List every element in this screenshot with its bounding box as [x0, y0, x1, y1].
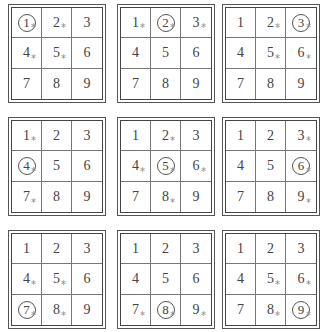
- cell-number: 1: [132, 242, 139, 256]
- grid-cell: 9: [181, 69, 211, 99]
- cell-number: 5: [267, 46, 274, 60]
- asterisk-icon: *: [275, 54, 280, 64]
- grid-cell: 3: [72, 234, 102, 264]
- grid-cell: 3: [286, 234, 316, 264]
- cell-number: 7: [132, 190, 139, 204]
- grid-frame: 1234*5*67*8*9: [11, 233, 103, 326]
- grid-frame: 123*456*789*: [225, 120, 317, 213]
- cell-number: 2: [53, 242, 60, 256]
- cell-number: 6: [298, 272, 305, 286]
- cell-number: 1: [23, 129, 30, 143]
- cell-number: 7: [237, 190, 244, 204]
- grid-cell: 1*: [12, 8, 42, 38]
- cell-number: 4: [132, 272, 139, 286]
- asterisk-icon: *: [275, 280, 280, 290]
- cell-number: 4: [132, 46, 139, 60]
- grid-frame: 12345*6*78*9*: [225, 233, 317, 326]
- grid-cell: 7*: [121, 295, 151, 325]
- grid-cell: 6: [72, 264, 102, 294]
- grid-cell: 4: [226, 38, 256, 68]
- grid-1: 1*2*34*5*6789: [8, 4, 106, 103]
- grid-6: 123*456*789*: [222, 117, 320, 216]
- grid-cell: 4: [121, 38, 151, 68]
- grid-cell: 4*: [12, 151, 42, 181]
- cell-number: 9: [193, 77, 200, 91]
- grid-cell: 5: [256, 151, 286, 181]
- asterisk-icon: *: [170, 198, 175, 208]
- grid-cell: 9: [181, 182, 211, 212]
- asterisk-icon: *: [31, 136, 36, 146]
- grid-cell: 1: [121, 121, 151, 151]
- grid-cell: 7: [12, 69, 42, 99]
- asterisk-icon: *: [306, 23, 311, 33]
- grid-cell: 4*: [121, 151, 151, 181]
- cell-number: 8: [267, 303, 274, 317]
- grid-cell: 8*: [151, 182, 181, 212]
- cell-number: 4: [23, 272, 30, 286]
- grid-frame: 1234567*8*9*: [120, 233, 212, 326]
- asterisk-icon: *: [170, 311, 175, 321]
- asterisk-icon: *: [31, 198, 36, 208]
- cell-number: 3: [84, 129, 91, 143]
- grid-frame: 1*2*34*5*6789: [11, 7, 103, 100]
- asterisk-icon: *: [170, 23, 175, 33]
- grid-cell: 3: [72, 121, 102, 151]
- cell-number: 3: [193, 16, 200, 30]
- cell-number: 7: [23, 190, 30, 204]
- grid-cell: 8: [42, 69, 72, 99]
- grid-cell: 5: [151, 264, 181, 294]
- grid-cell: 8: [256, 69, 286, 99]
- cell-number: 2: [162, 129, 169, 143]
- asterisk-icon: *: [140, 167, 145, 177]
- cell-number: 5: [267, 272, 274, 286]
- grid-cell: 9*: [286, 295, 316, 325]
- grid-frame: 12*3*45*6*789: [225, 7, 317, 100]
- cell-number: 8: [53, 190, 60, 204]
- cell-number: 7: [132, 303, 139, 317]
- cell-number: 3: [193, 129, 200, 143]
- grid-cell: 1: [226, 8, 256, 38]
- cell-number: 8: [162, 77, 169, 91]
- cell-number: 2: [267, 16, 274, 30]
- cell-number: 9: [84, 190, 91, 204]
- cell-number: 4: [132, 159, 139, 173]
- grid-frame: 12*34*5*6*78*9: [120, 120, 212, 213]
- grid-cell: 3: [181, 234, 211, 264]
- cell-number: 1: [132, 16, 139, 30]
- grid-cell: 5*: [42, 38, 72, 68]
- grid-cell: 4*: [12, 264, 42, 294]
- grid-cell: 9: [286, 69, 316, 99]
- grid-cell: 2*: [256, 8, 286, 38]
- grid-cell: 5: [42, 151, 72, 181]
- cell-number: 3: [84, 16, 91, 30]
- grid-cell: 4*: [12, 38, 42, 68]
- grid-cell: 6*: [286, 151, 316, 181]
- grid-cell: 8*: [151, 295, 181, 325]
- cell-number: 1: [237, 242, 244, 256]
- asterisk-icon: *: [201, 311, 206, 321]
- cell-number: 5: [53, 159, 60, 173]
- grid-cell: 9: [72, 182, 102, 212]
- grid-2: 1*2*3*456789: [117, 4, 215, 103]
- grid-cell: 8*: [42, 295, 72, 325]
- grid-cell: 7: [226, 295, 256, 325]
- cell-number: 6: [193, 159, 200, 173]
- cell-number: 7: [237, 77, 244, 91]
- cell-number: 9: [298, 77, 305, 91]
- grid-cell: 9*: [181, 295, 211, 325]
- grid-cell: 7: [121, 69, 151, 99]
- cell-number: 2: [267, 129, 274, 143]
- grid-frame: 1*234*567*89: [11, 120, 103, 213]
- cell-number: 1: [237, 129, 244, 143]
- cell-number: 4: [23, 46, 30, 60]
- cell-number: 2: [53, 16, 60, 30]
- grid-cell: 7*: [12, 182, 42, 212]
- cell-number: 9: [193, 303, 200, 317]
- grid-4: 1*234*567*89: [8, 117, 106, 216]
- asterisk-icon: *: [306, 198, 311, 208]
- grid-cell: 3*: [181, 8, 211, 38]
- cell-number: 6: [84, 46, 91, 60]
- grid-cell: 9: [72, 295, 102, 325]
- grid-cell: 5: [151, 38, 181, 68]
- grid-cell: 6*: [181, 151, 211, 181]
